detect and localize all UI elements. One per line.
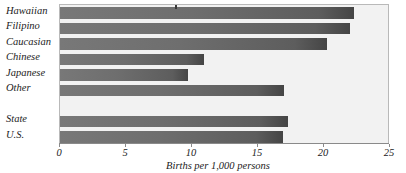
bar	[60, 38, 327, 50]
x-tick-label: 25	[384, 147, 395, 158]
bar	[60, 69, 188, 81]
x-tick-label: 5	[122, 147, 127, 158]
bar	[60, 23, 350, 35]
bar-row	[60, 7, 388, 19]
x-axis-line	[59, 143, 389, 144]
x-tick-label: 20	[318, 147, 329, 158]
category-label: U.S.	[0, 129, 53, 141]
category-label: Filipino	[0, 20, 53, 32]
bar	[60, 54, 204, 66]
bar-row-spacer	[60, 100, 388, 112]
bar-row	[60, 131, 388, 143]
category-label: Caucasian	[0, 36, 53, 48]
category-label: Hawaiian	[0, 5, 53, 17]
bar-row	[60, 23, 388, 35]
category-label: Japanese	[0, 67, 53, 79]
bar-row	[60, 69, 388, 81]
bar	[60, 85, 284, 97]
x-tick-label: 10	[186, 147, 197, 158]
bar-row	[60, 38, 388, 50]
x-tick-label: 0	[56, 147, 61, 158]
top-tick-mark	[175, 5, 177, 9]
bar	[60, 7, 354, 19]
bar-chart-figure: HawaiianFilipinoCaucasianChineseJapanese…	[0, 0, 406, 173]
category-label: Chinese	[0, 51, 53, 63]
bar-row	[60, 116, 388, 128]
x-tick-label: 15	[252, 147, 263, 158]
x-axis-title: Births per 1,000 persons	[0, 160, 406, 171]
bar-row	[60, 85, 388, 97]
bar	[60, 131, 283, 143]
bar	[60, 116, 288, 128]
category-label: Other	[0, 82, 53, 94]
bar-row	[60, 54, 388, 66]
category-label: State	[0, 113, 53, 125]
plot-area	[59, 4, 389, 144]
